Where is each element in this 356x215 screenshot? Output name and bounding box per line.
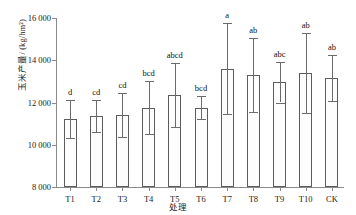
- error-cap-t10-lower: [302, 113, 311, 114]
- y-tick: [52, 60, 56, 61]
- error-cap-ck-upper: [328, 55, 337, 56]
- error-bar-t7: [227, 23, 228, 114]
- y-tick: [52, 145, 56, 146]
- significance-label-t9: abc: [274, 49, 286, 59]
- x-tick-label-t10: T10: [299, 194, 313, 204]
- error-cap-t9-lower: [276, 103, 285, 104]
- x-tick-label-t8: T8: [249, 194, 258, 204]
- error-cap-t5-upper: [171, 63, 180, 64]
- x-tick: [227, 187, 228, 191]
- x-tick-label-ck: CK: [326, 194, 338, 204]
- error-bar-t9: [280, 62, 281, 102]
- significance-label-t7: a: [225, 10, 229, 20]
- x-tick: [96, 187, 97, 191]
- significance-label-t5: abcd: [167, 50, 183, 60]
- error-cap-t7-upper: [223, 23, 232, 24]
- error-cap-t10-upper: [302, 33, 311, 34]
- x-tick: [70, 187, 71, 191]
- significance-label-t2: cd: [92, 87, 100, 97]
- error-cap-t6-lower: [197, 119, 206, 120]
- error-bar-t1: [70, 100, 71, 138]
- x-tick: [332, 187, 333, 191]
- error-bar-t3: [122, 93, 123, 137]
- x-tick: [306, 187, 307, 191]
- error-cap-t6-upper: [197, 96, 206, 97]
- plot-area: 8 00010 00012 00014 00016 000 T1T2T3T4T5…: [56, 18, 344, 188]
- error-cap-t8-lower: [249, 112, 258, 113]
- y-tick-label: 14 000: [28, 55, 51, 65]
- x-tick-label-t1: T1: [65, 194, 74, 204]
- y-tick: [52, 103, 56, 104]
- y-tick-label: 8 000: [32, 182, 51, 192]
- error-cap-t5-lower: [171, 127, 180, 128]
- x-tick-label-t4: T4: [144, 194, 153, 204]
- error-cap-t2-lower: [92, 132, 101, 133]
- error-bar-t10: [306, 33, 307, 113]
- significance-label-t1: d: [68, 87, 72, 97]
- y-tick: [52, 18, 56, 19]
- error-bar-t2: [96, 100, 97, 132]
- error-cap-t8-upper: [249, 38, 258, 39]
- significance-label-t4: bcd: [142, 68, 154, 78]
- x-tick-label-t9: T9: [275, 194, 284, 204]
- error-bar-t5: [175, 63, 176, 126]
- significance-label-t3: cd: [118, 80, 126, 90]
- x-tick: [175, 187, 176, 191]
- error-cap-t3-upper: [118, 93, 127, 94]
- x-tick-label-t7: T7: [222, 194, 231, 204]
- y-axis-line: [56, 18, 57, 188]
- x-tick-label-t6: T6: [196, 194, 205, 204]
- error-cap-t7-lower: [223, 114, 232, 115]
- error-cap-t1-upper: [66, 100, 75, 101]
- error-bar-t4: [149, 81, 150, 134]
- error-cap-t4-lower: [145, 134, 154, 135]
- y-tick-label: 12 000: [28, 98, 51, 108]
- y-tick-label: 16 000: [28, 13, 51, 23]
- error-cap-ck-lower: [328, 101, 337, 102]
- y-tick-label: 10 000: [28, 140, 51, 150]
- x-tick: [201, 187, 202, 191]
- x-tick: [253, 187, 254, 191]
- error-cap-t9-upper: [276, 62, 285, 63]
- significance-label-t8: ab: [249, 25, 257, 35]
- significance-label-t6: bcd: [195, 83, 207, 93]
- x-axis-line: [56, 187, 344, 188]
- error-cap-t1-lower: [66, 138, 75, 139]
- error-bar-ck: [332, 55, 333, 101]
- x-tick: [149, 187, 150, 191]
- error-cap-t2-upper: [92, 100, 101, 101]
- significance-label-ck: ab: [328, 42, 336, 52]
- error-bar-t6: [201, 96, 202, 119]
- x-tick-label-t3: T3: [118, 194, 127, 204]
- error-bar-t8: [253, 38, 254, 112]
- x-tick-label-t5: T5: [170, 194, 179, 204]
- x-tick: [122, 187, 123, 191]
- error-cap-t4-upper: [145, 81, 154, 82]
- chart-figure: 玉米产量/ (kg/hm²) 处理 8 00010 00012 00014 00…: [0, 0, 356, 215]
- x-tick-label-t2: T2: [92, 194, 101, 204]
- y-tick: [52, 187, 56, 188]
- error-cap-t3-lower: [118, 137, 127, 138]
- x-tick: [280, 187, 281, 191]
- significance-label-t10: ab: [302, 20, 310, 30]
